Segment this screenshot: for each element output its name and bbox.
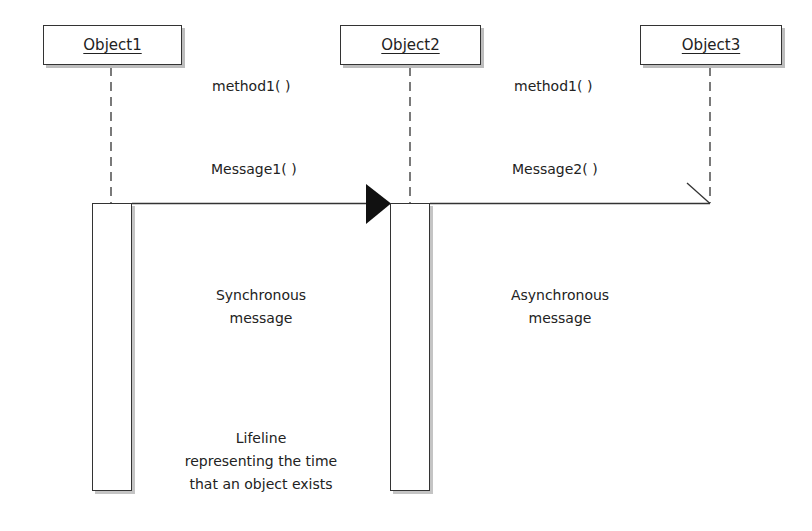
object3-label: Object3 [682,36,740,54]
object1-box: Object1 [43,25,182,65]
message1-label: Message1( ) [211,158,297,181]
object3-box: Object3 [640,25,782,65]
asynchronous-arrowhead-icon [687,183,710,204]
object2-label: Object2 [381,36,439,54]
method1-label-right: method1( ) [514,75,592,98]
object1-label: Object1 [83,36,141,54]
synchronous-arrowhead-icon [366,184,391,224]
object1-activation-bar [92,203,132,491]
method1-label-left: method1( ) [212,75,290,98]
lifeline-annotation: Lifeline representing the time that an o… [166,427,356,496]
object2-box: Object2 [340,25,481,65]
synchronous-message-annotation: Synchronous message [191,284,331,330]
sequence-diagram: Object1 Object2 Object3 method1( ) metho… [0,0,812,531]
object2-activation-bar [390,203,430,491]
asynchronous-message-annotation: Asynchronous message [490,284,630,330]
message2-label: Message2( ) [512,158,598,181]
